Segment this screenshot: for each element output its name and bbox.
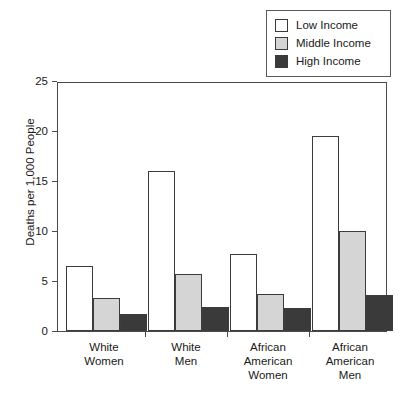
y-tick-label-10: 10 — [35, 225, 48, 238]
bar-african-american-women-middle-income — [257, 294, 284, 331]
bar-chart-figure: Low Income Middle Income High Income Dea… — [0, 0, 399, 397]
bar-white-women-middle-income — [93, 298, 120, 331]
legend-label-high-income: High Income — [296, 55, 361, 68]
bar-african-american-women-low-income — [230, 254, 257, 331]
bar-african-american-women-high-income — [284, 308, 311, 331]
y-axis-label: Deaths per 1,000 People — [24, 72, 36, 292]
plot-area — [57, 82, 387, 332]
legend-item-high-income: High Income — [275, 52, 383, 70]
legend-swatch-low-income — [275, 19, 288, 32]
y-tick-label-5: 5 — [42, 275, 48, 288]
legend-label-middle-income: Middle Income — [296, 37, 371, 50]
x-label-african-american-men: African American Men — [298, 340, 399, 382]
bar-african-american-men-high-income — [366, 295, 393, 331]
legend-item-middle-income: Middle Income — [275, 34, 383, 52]
legend-item-low-income: Low Income — [275, 16, 383, 34]
legend-swatch-high-income — [275, 55, 288, 68]
y-tick-label-20: 20 — [35, 125, 48, 138]
bar-white-men-high-income — [202, 307, 229, 331]
x-tick-mark-1 — [145, 332, 146, 337]
chart-legend: Low Income Middle Income High Income — [266, 10, 391, 77]
legend-swatch-middle-income — [275, 37, 288, 50]
x-tick-mark-3 — [309, 332, 310, 337]
y-tick-label-0: 0 — [42, 325, 48, 338]
bar-white-women-high-income — [120, 314, 147, 331]
bar-african-american-men-low-income — [312, 136, 339, 331]
bar-white-women-low-income — [66, 266, 93, 331]
bar-white-men-middle-income — [175, 274, 202, 331]
bar-african-american-men-middle-income — [339, 231, 366, 331]
bar-white-men-low-income — [148, 171, 175, 331]
legend-label-low-income: Low Income — [296, 19, 358, 32]
x-tick-mark-2 — [227, 332, 228, 337]
y-tick-label-15: 15 — [35, 175, 48, 188]
y-tick-label-25: 25 — [35, 75, 48, 88]
